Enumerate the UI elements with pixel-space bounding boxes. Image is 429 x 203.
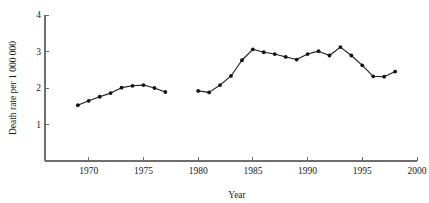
data-point-1970 bbox=[87, 99, 91, 103]
x-tick-label-2000: 2000 bbox=[408, 166, 427, 176]
data-point-1986 bbox=[262, 50, 266, 54]
chart-plot-area: 1970197519801985199019952000 1234 Year D… bbox=[0, 0, 429, 203]
data-point-1971 bbox=[98, 95, 102, 99]
data-point-1980 bbox=[196, 89, 200, 93]
data-point-1997 bbox=[382, 75, 386, 79]
data-point-1972 bbox=[109, 91, 113, 95]
data-point-1995 bbox=[360, 63, 364, 67]
y-axis-ticks bbox=[45, 15, 49, 125]
data-point-1976 bbox=[153, 86, 157, 90]
chart-series bbox=[76, 45, 397, 107]
x-tick-label-1975: 1975 bbox=[134, 166, 153, 176]
data-point-1977 bbox=[163, 90, 167, 94]
data-point-1988 bbox=[284, 55, 288, 59]
data-point-1974 bbox=[131, 84, 135, 88]
data-point-1983 bbox=[229, 74, 233, 78]
data-point-1982 bbox=[218, 83, 222, 87]
data-point-1992 bbox=[328, 54, 332, 58]
x-tick-label-1985: 1985 bbox=[243, 166, 262, 176]
data-point-1990 bbox=[306, 52, 310, 56]
data-point-1969 bbox=[76, 103, 80, 107]
data-point-1998 bbox=[393, 70, 397, 74]
x-axis-title: Year bbox=[228, 190, 246, 200]
data-point-1981 bbox=[207, 90, 211, 94]
series-line-segment-2 bbox=[198, 47, 395, 92]
data-point-1975 bbox=[142, 83, 146, 87]
x-tick-label-1980: 1980 bbox=[189, 166, 208, 176]
data-point-1989 bbox=[295, 58, 299, 62]
x-tick-label-1970: 1970 bbox=[79, 166, 98, 176]
data-point-1996 bbox=[371, 74, 375, 78]
chart-axes bbox=[45, 15, 417, 161]
death-rate-line-chart: 1970197519801985199019952000 1234 Year D… bbox=[0, 0, 429, 203]
data-point-1994 bbox=[349, 54, 353, 58]
data-point-1973 bbox=[120, 86, 124, 90]
y-tick-label-1: 1 bbox=[36, 120, 41, 130]
x-tick-label-1990: 1990 bbox=[298, 166, 317, 176]
y-tick-label-2: 2 bbox=[36, 83, 41, 93]
y-tick-label-4: 4 bbox=[36, 10, 41, 20]
data-point-1985 bbox=[251, 47, 255, 51]
data-point-1984 bbox=[240, 58, 244, 62]
y-axis-title: Death rate per 1 000 000 bbox=[8, 41, 18, 135]
x-axis-tick-labels: 1970197519801985199019952000 bbox=[79, 166, 426, 176]
y-tick-label-3: 3 bbox=[36, 47, 41, 57]
x-tick-label-1995: 1995 bbox=[353, 166, 372, 176]
y-axis-tick-labels: 1234 bbox=[36, 10, 41, 129]
data-point-1991 bbox=[317, 49, 321, 53]
data-point-1987 bbox=[273, 52, 277, 56]
x-axis-ticks bbox=[89, 157, 417, 161]
data-point-1993 bbox=[339, 45, 343, 49]
